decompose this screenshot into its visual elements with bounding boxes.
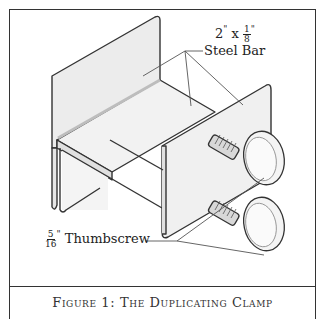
thumbscrew-label: 5 16 " Thumbscrew [45,230,150,249]
steel-bar-dimension-label: 2" x 1 8 " [215,25,255,44]
thumbscrew-name: Thumbscrew [65,231,150,246]
thumbscrew-lower [208,193,290,254]
figure-caption: Figure 1: The Duplicating Clamp [9,287,316,318]
steel-bar-thickness-fraction: 1 8 [243,25,251,44]
inch-mark: " [56,229,60,239]
thumbscrew-size-fraction: 5 16 [45,230,56,249]
steel-bar-label: Steel Bar [204,44,265,57]
left-plate-lower [52,148,57,209]
inch-mark: " [251,24,255,34]
inch-mark: " [223,24,227,34]
times-sign: x [232,26,239,41]
